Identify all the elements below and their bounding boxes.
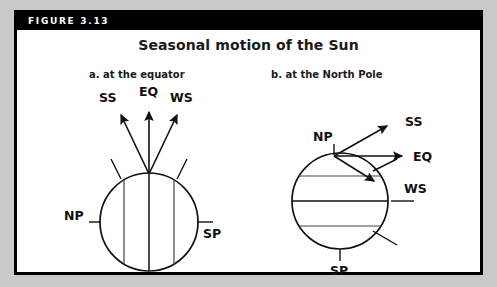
panel-a-ray-tick-right (177, 159, 187, 179)
panel-b-ws-arrow (334, 156, 374, 181)
panel-a-ws-label: WS (170, 90, 193, 105)
panel-a-ss-arrow (121, 115, 149, 174)
panel-b-eq-label: EQ (413, 149, 432, 164)
panel-b-ws-label: WS (404, 181, 427, 196)
panel-b-sp-label: SP (330, 263, 348, 278)
panel-b-np-label: NP (313, 129, 333, 144)
panel-a-eq-label: EQ (139, 84, 158, 99)
figure-frame: FIGURE 3.13 Seasonal motion of the Sun a… (14, 10, 483, 275)
panel-b-upper-tick (373, 159, 397, 171)
panel-b-ss-label: SS (405, 114, 422, 129)
panel-a-np-label: NP (64, 208, 84, 223)
panel-a-sp-label: SP (203, 226, 221, 241)
panel-b-lower-tick (373, 231, 397, 245)
panel-a-ws-arrow (149, 115, 177, 174)
panel-a-ray-tick-left (111, 159, 121, 179)
panel-b-ss-arrow (334, 126, 387, 156)
panel-b-diagram: NP SP SS EQ WS (292, 114, 432, 278)
panel-a-diagram: NP SP SS EQ WS (64, 84, 221, 271)
panel-a-ss-label: SS (99, 90, 116, 105)
diagram-canvas: NP SP SS EQ WS (17, 13, 480, 272)
figure-root: FIGURE 3.13 Seasonal motion of the Sun a… (0, 0, 497, 287)
